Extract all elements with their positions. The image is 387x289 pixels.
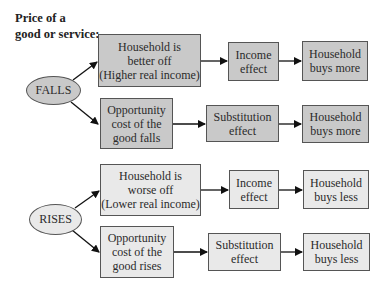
- buys-less-box-substitution: Household buys less: [303, 233, 370, 271]
- income-effect-box-rises: Income effect: [229, 170, 279, 209]
- box-text-line: effect: [215, 252, 273, 266]
- falls-label: FALLS: [36, 83, 72, 98]
- box-text-line: cost of the: [108, 245, 167, 259]
- box-text-line: worse off: [101, 183, 200, 197]
- buys-more-box-substitution: Household buys more: [302, 105, 369, 143]
- box-text-line: Household is: [99, 40, 200, 54]
- box-text-line: Household is: [101, 169, 200, 183]
- box-text-line: Substitution: [213, 110, 271, 124]
- box-text-line: Opportunity: [108, 231, 167, 245]
- income-effect-box-falls: Income effect: [228, 42, 279, 81]
- box-text-line: Substitution: [215, 238, 273, 252]
- box-text-line: effect: [236, 190, 272, 204]
- box-text-line: Income: [236, 176, 272, 190]
- box-text-line: cost of the: [107, 117, 166, 131]
- box-text-line: Household: [309, 47, 361, 61]
- box-text-line: (Higher real income): [99, 68, 200, 82]
- substitution-effect-box-rises: Substitution effect: [208, 233, 281, 271]
- box-text-line: buys more: [310, 124, 362, 138]
- box-text-line: Opportunity: [107, 103, 166, 117]
- rises-node: RISES: [29, 204, 82, 235]
- box-text-line: Household: [310, 110, 362, 124]
- box-text-line: good rises: [108, 259, 167, 273]
- box-text-line: good falls: [107, 131, 166, 145]
- better-off-box: Household is better off (Higher real inc…: [98, 34, 201, 87]
- rises-label: RISES: [39, 212, 72, 227]
- box-text-line: Income: [236, 48, 272, 62]
- opportunity-cost-falls-box: Opportunity cost of the good falls: [100, 98, 173, 149]
- box-text-line: Household: [310, 176, 362, 190]
- box-text-line: Household: [311, 238, 363, 252]
- box-text-line: better off: [99, 54, 200, 68]
- falls-node: FALLS: [26, 76, 81, 105]
- box-text-line: buys less: [310, 190, 362, 204]
- buys-more-box-income: Household buys more: [302, 41, 368, 81]
- box-text-line: buys less: [311, 252, 363, 266]
- substitution-effect-box-falls: Substitution effect: [206, 105, 279, 142]
- worse-off-box: Household is worse off (Lower real incom…: [100, 164, 201, 216]
- box-text-line: (Lower real income): [101, 197, 200, 211]
- box-text-line: buys more: [309, 61, 361, 75]
- box-text-line: effect: [213, 124, 271, 138]
- box-text-line: effect: [236, 62, 272, 76]
- buys-less-box-income: Household buys less: [303, 170, 369, 209]
- opportunity-cost-rises-box: Opportunity cost of the good rises: [100, 226, 174, 278]
